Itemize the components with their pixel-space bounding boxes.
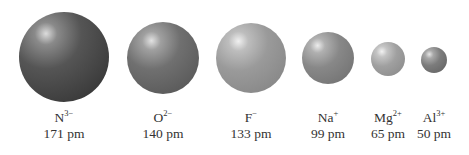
ion-symbol: Na bbox=[318, 110, 334, 125]
ion-symbol: N bbox=[55, 110, 65, 125]
ion-charge: 2− bbox=[163, 108, 172, 118]
ion-radius: 140 pm bbox=[123, 126, 203, 142]
sphere-o2-minus bbox=[127, 22, 199, 94]
ion-radius: 133 pm bbox=[211, 126, 291, 142]
ion-symbol: Al bbox=[423, 110, 437, 125]
ion-charge: + bbox=[333, 108, 338, 118]
ion-charge: 3− bbox=[64, 108, 73, 118]
ion-radius: 171 pm bbox=[24, 126, 104, 142]
sphere-al3-plus bbox=[421, 47, 447, 73]
ion-symbol: O bbox=[154, 110, 164, 125]
ion-charge: 3+ bbox=[436, 108, 445, 118]
sphere-na-plus bbox=[302, 32, 354, 84]
ion-radius: 50 pm bbox=[394, 126, 469, 142]
sphere-n3-minus bbox=[19, 12, 109, 102]
sphere-mg2-plus bbox=[371, 42, 405, 76]
ion-symbol: Mg bbox=[374, 110, 393, 125]
sphere-f-minus bbox=[216, 23, 286, 93]
ion-charge: − bbox=[252, 108, 257, 118]
